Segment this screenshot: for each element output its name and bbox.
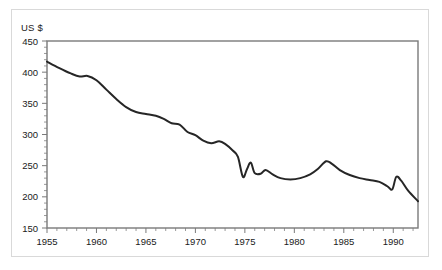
y-tick-label: 450 (22, 36, 38, 47)
data-series-line (47, 62, 418, 202)
x-tick-label: 1980 (284, 236, 305, 247)
y-tick-label: 400 (22, 67, 38, 78)
x-tick-label: 1985 (333, 236, 354, 247)
x-tick-label: 1990 (383, 236, 404, 247)
x-tick-label: 1965 (135, 236, 156, 247)
y-tick-label: 200 (22, 191, 38, 202)
x-tick-label: 1975 (234, 236, 255, 247)
y-tick-label: 250 (22, 160, 38, 171)
plot-area-frame (47, 41, 418, 228)
y-tick-label: 350 (22, 98, 38, 109)
y-axis-ticks: 150200250300350400450 (22, 36, 47, 234)
y-tick-label: 150 (22, 223, 38, 234)
chart-figure: US $ 150200250300350400450 1955196019651… (0, 0, 442, 270)
x-tick-label: 1970 (185, 236, 206, 247)
y-tick-label: 300 (22, 129, 38, 140)
x-axis-ticks: 19551960196519701975198019851990 (36, 228, 413, 247)
line-chart-plot: 150200250300350400450 195519601965197019… (0, 0, 442, 270)
x-tick-label: 1960 (86, 236, 107, 247)
x-tick-label: 1955 (36, 236, 57, 247)
